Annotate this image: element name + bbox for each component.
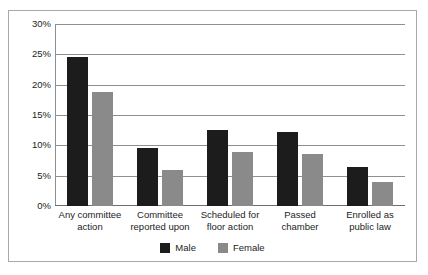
x-category-label: Scheduled for floor action xyxy=(199,209,262,232)
bar-group xyxy=(269,24,332,206)
x-category-label: Committee reported upon xyxy=(129,209,192,232)
bar-female xyxy=(372,182,393,206)
legend-label: Female xyxy=(233,243,265,253)
x-category-label-line: action xyxy=(59,221,122,233)
bar-group xyxy=(339,24,402,206)
x-category-label-line: Any committee xyxy=(59,209,122,221)
x-axis-category-labels: Any committee action Committee reported … xyxy=(55,209,405,232)
bar-female xyxy=(92,92,113,206)
y-tick-label: 15% xyxy=(32,110,51,120)
legend-item-female: Female xyxy=(218,243,265,253)
bar-groups xyxy=(55,24,405,206)
x-category-label-line: floor action xyxy=(199,221,262,233)
bar-male xyxy=(67,57,88,206)
bar-male xyxy=(137,148,158,206)
bar-group xyxy=(59,24,122,206)
legend-item-male: Male xyxy=(160,243,196,253)
bar-male xyxy=(277,132,298,206)
x-category-label: Any committee action xyxy=(59,209,122,232)
x-category-label: Enrolled as public law xyxy=(339,209,402,232)
plot-area xyxy=(55,24,405,206)
bar-chart-figure: 30% 25% 20% 15% 10% 5% 0% xyxy=(8,10,417,262)
legend-swatch-icon xyxy=(160,243,170,253)
y-tick-label: 10% xyxy=(32,140,51,150)
plot-wrapper: 30% 25% 20% 15% 10% 5% 0% xyxy=(9,11,416,261)
x-category-label-line: Scheduled for xyxy=(199,209,262,221)
bar-male xyxy=(347,167,368,206)
y-axis-tick-labels: 30% 25% 20% 15% 10% 5% 0% xyxy=(15,24,51,206)
legend-swatch-icon xyxy=(218,243,228,253)
legend-label: Male xyxy=(175,243,196,253)
x-category-label-line: chamber xyxy=(269,221,332,233)
y-tick-label: 30% xyxy=(32,19,51,29)
bar-female xyxy=(162,170,183,206)
x-category-label-line: Committee xyxy=(129,209,192,221)
x-category-label-line: Passed xyxy=(269,209,332,221)
bar-group xyxy=(199,24,262,206)
bar-male xyxy=(207,130,228,206)
x-category-label-line: Enrolled as xyxy=(339,209,402,221)
y-tick-label: 20% xyxy=(32,80,51,90)
bar-female xyxy=(232,152,253,206)
x-category-label-line: public law xyxy=(339,221,402,233)
y-tick-label: 25% xyxy=(32,49,51,59)
y-tick-label: 0% xyxy=(37,201,51,211)
y-tick-label: 5% xyxy=(37,171,51,181)
x-category-label-line: reported upon xyxy=(129,221,192,233)
x-category-label: Passed chamber xyxy=(269,209,332,232)
bar-female xyxy=(302,154,323,206)
chart-legend: Male Female xyxy=(9,243,416,253)
bar-group xyxy=(129,24,192,206)
